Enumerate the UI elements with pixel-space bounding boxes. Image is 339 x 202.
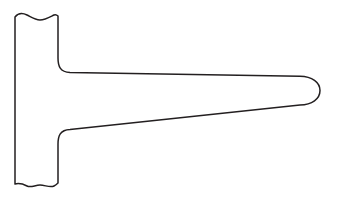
technical-drawing-svg xyxy=(0,0,339,202)
drawing-canvas xyxy=(0,0,339,202)
